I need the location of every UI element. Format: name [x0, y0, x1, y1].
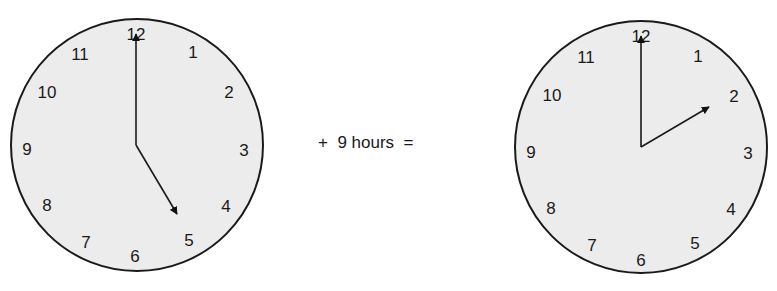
numeral-7: 7 [81, 233, 90, 252]
numeral-2: 2 [224, 83, 233, 102]
numeral-8: 8 [546, 199, 555, 218]
clock-face [11, 19, 263, 271]
numeral-10: 10 [543, 86, 562, 105]
plus-sign: + [318, 133, 328, 152]
added-duration: 9 hours [337, 133, 394, 152]
start-clock: 12 1 2 3 4 5 6 7 8 9 10 11 [11, 19, 263, 271]
numeral-4: 4 [726, 200, 735, 219]
numeral-5: 5 [690, 234, 699, 253]
numeral-8: 8 [42, 196, 51, 215]
numeral-9: 9 [526, 143, 535, 162]
numeral-3: 3 [743, 144, 752, 163]
numeral-6: 6 [636, 251, 645, 270]
numeral-9: 9 [22, 140, 31, 159]
numeral-5: 5 [184, 231, 193, 250]
numeral-1: 1 [693, 47, 702, 66]
time-addition-equation: + 9 hours = [318, 133, 413, 153]
numeral-10: 10 [38, 83, 57, 102]
equals-sign: = [404, 133, 414, 152]
numeral-4: 4 [221, 197, 230, 216]
numeral-2: 2 [729, 87, 738, 106]
numeral-11: 11 [71, 45, 89, 64]
numeral-1: 1 [188, 43, 197, 62]
result-clock: 12 1 2 3 4 5 6 7 8 9 10 11 [515, 21, 767, 273]
numeral-7: 7 [587, 236, 596, 255]
numeral-11: 11 [577, 48, 595, 67]
numeral-6: 6 [130, 247, 139, 266]
numeral-3: 3 [239, 141, 248, 160]
